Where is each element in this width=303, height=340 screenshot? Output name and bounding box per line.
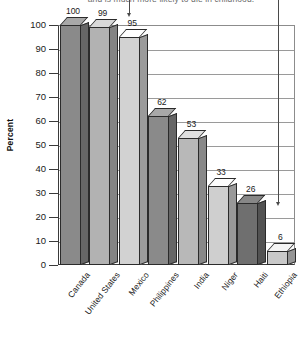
bar-front-face (60, 25, 81, 265)
bar-united-states (89, 27, 110, 265)
y-tick-40 (49, 169, 58, 170)
bar-value-label-niger: 33 (204, 167, 238, 177)
y-tick-90 (49, 49, 58, 50)
bar-side-face (288, 248, 296, 265)
arrow-ethiopia-line (278, 0, 279, 203)
y-tick-20 (49, 217, 58, 218)
bar-front-face (208, 186, 229, 265)
bar-front-face (148, 116, 169, 265)
bar-front-face (119, 37, 140, 265)
bar-value-label-united-states: 99 (86, 8, 120, 18)
bar-side-face (81, 22, 89, 265)
bar-side-face (140, 34, 148, 265)
bar-value-label-mexico: 95 (115, 18, 149, 28)
bar-haiti (237, 203, 258, 265)
y-tick-70 (49, 97, 58, 98)
bar-mexico (119, 37, 140, 265)
bar-front-face (267, 251, 288, 265)
bar-side-face (229, 183, 237, 265)
bar-side-face (169, 113, 177, 265)
bar-value-label-philippines: 62 (145, 97, 179, 107)
bar-ethiopia (267, 251, 288, 265)
bar-philippines (148, 116, 169, 265)
bar-side-face (110, 24, 118, 265)
bar-front-face (178, 138, 199, 265)
bar-value-label-haiti: 26 (234, 184, 268, 194)
bar-canada (60, 25, 81, 265)
y-tick-50 (49, 145, 58, 146)
bar-niger (208, 186, 229, 265)
y-tick-60 (49, 121, 58, 122)
chart-figure: and is much more likely to die in childh… (0, 0, 303, 340)
y-tick-30 (49, 193, 58, 194)
arrow-ethiopia-head (276, 202, 280, 206)
bar-front-face (237, 203, 258, 265)
y-tick-100 (49, 25, 58, 26)
bar-front-face (89, 27, 110, 265)
y-tick-0 (49, 265, 58, 266)
bar-value-label-ethiopia: 6 (263, 232, 297, 242)
y-tick-80 (49, 73, 58, 74)
bar-side-face (199, 135, 207, 265)
bar-value-label-india: 53 (175, 119, 209, 129)
arrow-united-states-line (129, 0, 130, 14)
bar-india (178, 138, 199, 265)
arrow-united-states-head (127, 13, 131, 17)
y-tick-10 (49, 241, 58, 242)
